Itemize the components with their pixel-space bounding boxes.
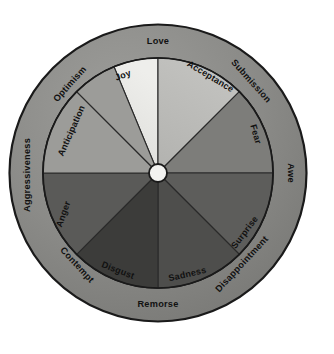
ring-label-aggressiveness: Aggressiveness [22,138,32,212]
wheel-center-hub[interactable] [149,164,167,182]
emotion-wheel-figure: Love Submission Awe Disappointment Remor… [0,0,334,354]
ring-label-awe: Awe [286,163,296,182]
plutchik-wheel-svg: Love Submission Awe Disappointment Remor… [0,0,334,354]
ring-label-love: Love [147,36,169,46]
ring-label-remorse: Remorse [137,299,178,309]
